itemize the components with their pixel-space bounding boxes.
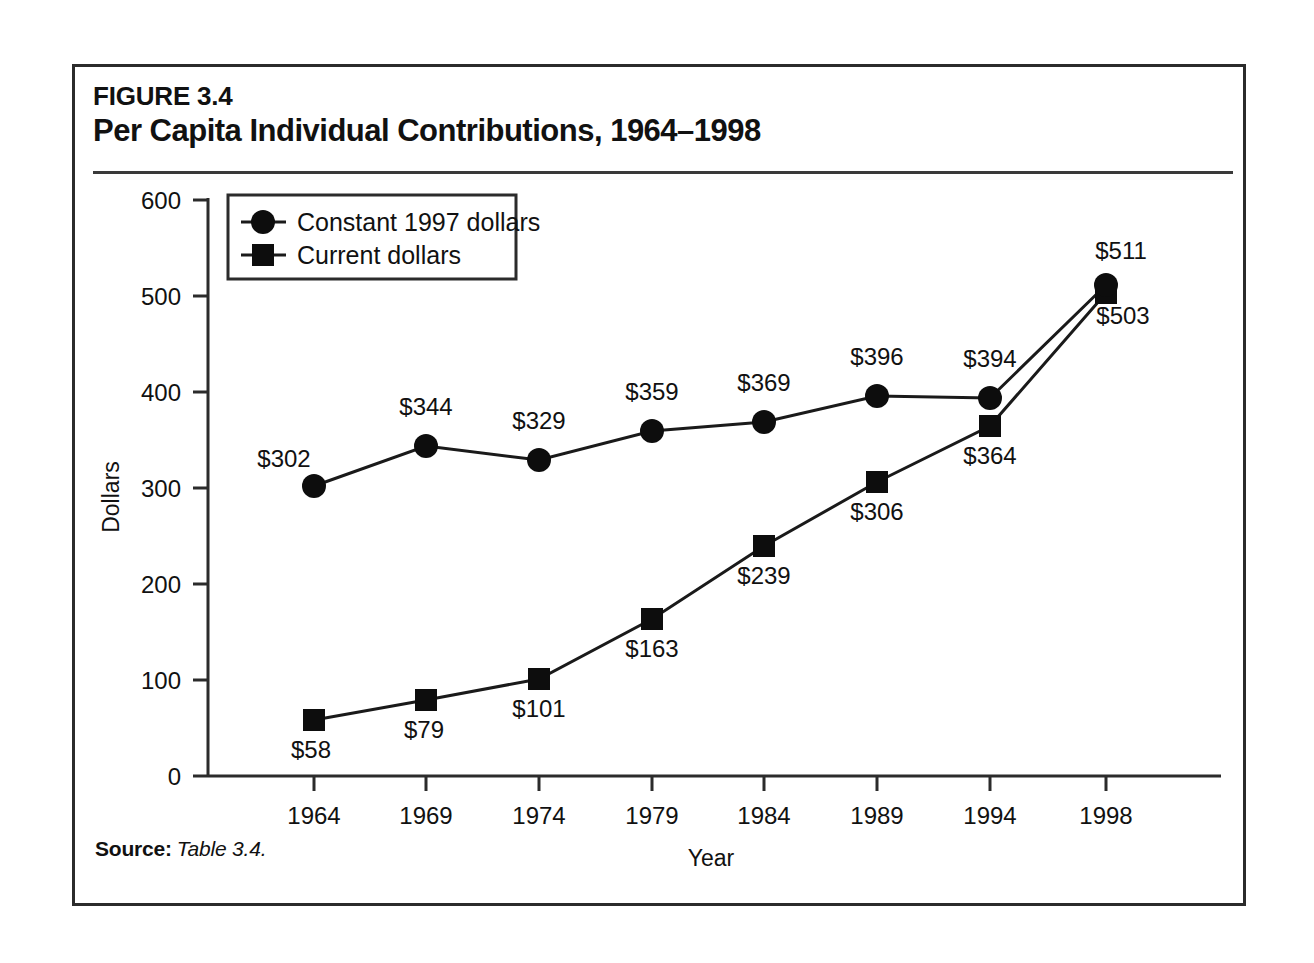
chart-legend: Constant 1997 dollars Current dollars	[228, 195, 540, 279]
legend-square-icon	[252, 244, 274, 266]
y-tick-label-100: 100	[141, 667, 181, 694]
data-label-current-1964: $58	[291, 736, 331, 763]
x-tick-label-1984: 1984	[737, 802, 790, 829]
y-tick-label-200: 200	[141, 571, 181, 598]
data-label-constant-1984: $369	[737, 369, 790, 396]
chart-plot-area: 600 500 400 300 200 100 0 Dollars 1964	[75, 67, 1249, 909]
y-tick-label-500: 500	[141, 283, 181, 310]
legend-label-current-dollars: Current dollars	[297, 241, 461, 269]
source-label: Source:	[95, 837, 172, 860]
data-label-current-1998: $503	[1096, 302, 1149, 329]
legend-circle-icon	[251, 210, 275, 234]
y-axis-title: Dollars	[98, 461, 124, 533]
x-tick-label-1969: 1969	[399, 802, 452, 829]
data-label-current-1974: $101	[512, 695, 565, 722]
data-label-current-1979: $163	[625, 635, 678, 662]
legend-item-current-dollars[interactable]: Current dollars	[241, 241, 461, 269]
x-tick-label-1964: 1964	[287, 802, 340, 829]
x-tick-label-1998: 1998	[1079, 802, 1132, 829]
line-chart: 600 500 400 300 200 100 0 Dollars 1964	[75, 67, 1249, 909]
x-axis-ticks	[314, 776, 1106, 791]
data-label-constant-1994: $394	[963, 345, 1016, 372]
data-label-current-1989: $306	[850, 498, 903, 525]
x-axis-title: Year	[688, 845, 735, 871]
data-label-current-1994: $364	[963, 442, 1016, 469]
data-label-constant-1979: $359	[625, 378, 678, 405]
data-label-constant-1974: $329	[512, 407, 565, 434]
data-label-constant-1989: $396	[850, 343, 903, 370]
data-label-constant-1998: $511	[1095, 237, 1147, 264]
x-tick-label-1979: 1979	[625, 802, 678, 829]
x-tick-label-1974: 1974	[512, 802, 565, 829]
source-text: Table 3.4.	[177, 837, 266, 860]
data-label-current-1984: $239	[737, 562, 790, 589]
y-tick-label-600: 600	[141, 187, 181, 214]
legend-label-constant-dollars: Constant 1997 dollars	[297, 208, 540, 236]
y-tick-label-300: 300	[141, 475, 181, 502]
data-label-constant-1964: $302	[257, 445, 310, 472]
x-tick-label-1994: 1994	[963, 802, 1016, 829]
x-tick-label-1989: 1989	[850, 802, 903, 829]
y-axis-ticks	[193, 200, 208, 776]
y-tick-label-0: 0	[168, 763, 181, 790]
figure-container: FIGURE 3.4 Per Capita Individual Contrib…	[72, 64, 1246, 906]
data-label-constant-1969: $344	[399, 393, 452, 420]
source-note: Source:Table 3.4.	[95, 837, 266, 861]
data-label-current-1969: $79	[404, 716, 444, 743]
y-tick-label-400: 400	[141, 379, 181, 406]
